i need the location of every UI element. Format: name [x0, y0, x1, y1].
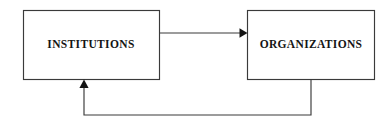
- node-organizations: ORGANIZATIONS: [248, 11, 375, 80]
- node-organizations-label: ORGANIZATIONS: [260, 38, 363, 50]
- node-institutions: INSTITUTIONS: [24, 11, 160, 80]
- node-institutions-label: INSTITUTIONS: [47, 38, 134, 50]
- edge-institutions-to-organizations: [159, 28, 248, 38]
- edge-forward-arrowhead-icon: [240, 28, 248, 38]
- institutions-organizations-diagram: INSTITUTIONS ORGANIZATIONS: [0, 0, 391, 129]
- diagram-canvas: INSTITUTIONS ORGANIZATIONS: [0, 0, 391, 129]
- edge-feedback-arrowhead-icon: [79, 80, 88, 89]
- edge-organizations-to-institutions: [79, 80, 311, 116]
- edge-feedback-line: [84, 80, 311, 116]
